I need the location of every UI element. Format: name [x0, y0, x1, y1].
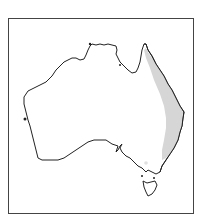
tasmania: [143, 181, 157, 196]
island-dot: [141, 175, 143, 177]
island-dot: [89, 43, 91, 45]
island-dot: [153, 177, 155, 179]
australia-map: [0, 0, 204, 224]
outlier-point: [144, 161, 148, 165]
island-dot: [24, 118, 27, 121]
island-dot: [119, 64, 121, 66]
mainland-australia: [24, 44, 184, 174]
